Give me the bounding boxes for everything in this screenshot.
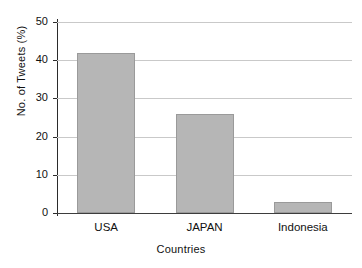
x-tick-label: Indonesia <box>248 220 358 234</box>
bar <box>77 53 135 213</box>
y-tick-mark <box>53 213 57 214</box>
y-tick-mark <box>53 137 57 138</box>
y-tick-mark <box>53 98 57 99</box>
y-tick-mark <box>53 22 57 23</box>
y-tick-label: 50 <box>8 16 48 27</box>
bar <box>274 202 332 213</box>
x-tick-label: JAPAN <box>150 220 260 234</box>
bar <box>176 114 234 213</box>
y-tick-label: 30 <box>8 92 48 103</box>
bar-chart: No. of Tweets (%) 01020304050 USAJAPANIn… <box>0 0 362 268</box>
y-tick-mark <box>53 60 57 61</box>
y-tick-label: 10 <box>8 169 48 180</box>
x-axis-title: Countries <box>0 243 362 255</box>
gridline <box>57 22 352 23</box>
y-tick-mark <box>53 175 57 176</box>
y-tick-label: 40 <box>8 54 48 65</box>
y-axis-line <box>57 19 58 216</box>
x-axis-line <box>57 213 352 214</box>
y-tick-label: 20 <box>8 131 48 142</box>
x-tick-label: USA <box>51 220 161 234</box>
y-tick-label: 0 <box>8 207 48 218</box>
